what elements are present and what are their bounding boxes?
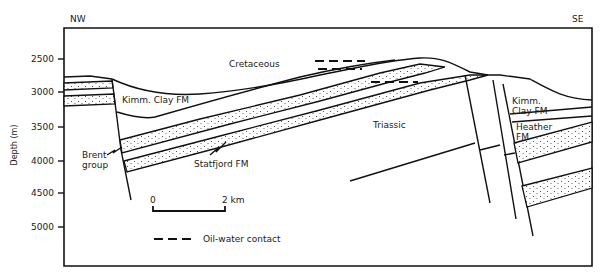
svg-text:2 km: 2 km xyxy=(222,195,245,205)
tick-5000: 5000 xyxy=(31,222,54,232)
geological-cross-section: NW SE 2500 3000 3500 4000 4500 5000 Dept… xyxy=(0,0,606,278)
se-fault-1 xyxy=(465,75,490,203)
brent-sand-layer xyxy=(120,64,445,153)
label-statfjord: Statfjord FM xyxy=(194,159,249,169)
svg-text:0: 0 xyxy=(150,195,156,205)
label-triassic: Triassic xyxy=(372,120,406,130)
tick-2500: 2500 xyxy=(31,54,54,64)
tick-4500: 4500 xyxy=(31,188,54,198)
compass-nw-label: NW xyxy=(70,14,86,24)
statfjord-sand-layer xyxy=(124,75,488,172)
compass-se-label: SE xyxy=(572,14,584,24)
label-kimm-clay-left: Kimm. Clay FM xyxy=(122,95,189,105)
base-cretaceous xyxy=(112,58,592,100)
depth-axis-title: Depth (m) xyxy=(10,125,19,166)
se-sand-lower xyxy=(522,168,592,207)
legend-owc-label: Oil-water contact xyxy=(203,234,281,244)
label-cretaceous: Cretaceous xyxy=(229,59,280,69)
tick-3500: 3500 xyxy=(31,122,54,132)
tick-3000: 3000 xyxy=(31,87,54,97)
depth-axis: 2500 3000 3500 4000 4500 5000 Depth (m) xyxy=(10,54,64,232)
tick-4000: 4000 xyxy=(31,156,54,166)
legend: Oil-water contact xyxy=(154,234,281,244)
scale-bar: 0 2 km xyxy=(150,195,245,211)
nw-block xyxy=(64,76,115,106)
label-kimm-clay-right: Kimm. Clay FM xyxy=(512,96,547,116)
label-brent-group: Brent group xyxy=(82,150,109,170)
